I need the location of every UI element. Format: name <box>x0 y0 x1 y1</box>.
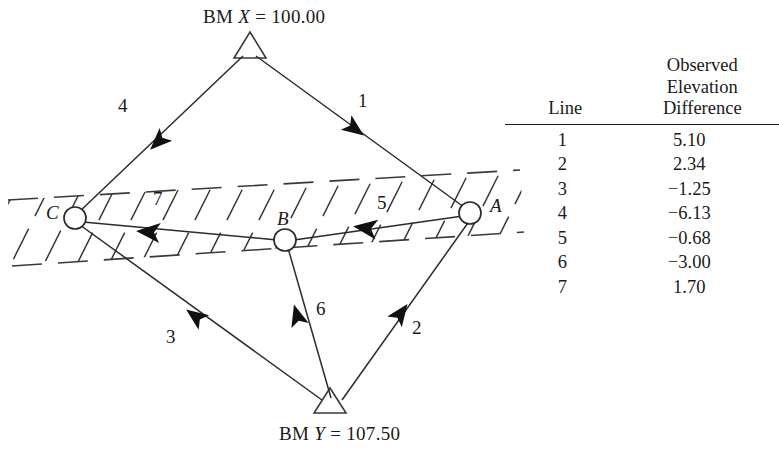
cell-line: 1 <box>505 124 626 152</box>
line-number-2: 2 <box>412 318 422 337</box>
bm-y-label: BM Y = 107.50 <box>279 424 400 443</box>
arrowhead-line-3 <box>181 302 209 329</box>
table-row: 5 −0.68 <box>505 226 779 250</box>
cell-difference: 5.10 <box>626 124 779 152</box>
cell-difference: −0.68 <box>626 226 779 250</box>
table-header: Line Observed Elevation Difference <box>505 55 779 124</box>
cell-difference: 1.70 <box>626 275 779 299</box>
station-label-c: C <box>46 203 59 222</box>
station-label-a: A <box>490 196 502 215</box>
column-header-line-text: Line <box>505 98 626 120</box>
arrowhead-line-7 <box>135 221 161 243</box>
table-row: 2 2.34 <box>505 153 779 177</box>
cell-line: 4 <box>505 202 626 226</box>
arrowhead-line-4 <box>144 128 172 156</box>
cell-line: 6 <box>505 251 626 275</box>
column-header-observed-text: Observed <box>626 55 779 77</box>
column-header-elevation-text: Elevation <box>626 77 779 99</box>
cell-line: 5 <box>505 226 626 250</box>
table-row: 6 −3.00 <box>505 251 779 275</box>
column-header-difference-text: Difference <box>626 98 779 120</box>
direction-arrowheads <box>135 115 415 329</box>
station-node-c <box>64 207 86 229</box>
cell-difference: −3.00 <box>626 251 779 275</box>
cell-line: 7 <box>505 275 626 299</box>
edge-line-5 <box>294 216 463 240</box>
network-edges <box>78 56 470 400</box>
line-number-6: 6 <box>316 299 326 318</box>
edge-line-7 <box>83 222 277 240</box>
cell-difference: −6.13 <box>626 202 779 226</box>
line-number-1: 1 <box>358 91 368 110</box>
table-row: 3 −1.25 <box>505 177 779 201</box>
cell-difference: −1.25 <box>626 177 779 201</box>
station-node-a <box>459 202 481 224</box>
cell-line: 3 <box>505 177 626 201</box>
line-number-7: 7 <box>153 189 163 208</box>
line-number-5: 5 <box>377 193 387 212</box>
line-number-4: 4 <box>118 96 128 115</box>
cell-line: 2 <box>505 153 626 177</box>
line-number-3: 3 <box>166 327 176 346</box>
table-header-row: Line Observed Elevation Difference <box>505 55 779 124</box>
bm-x-symbol <box>234 32 266 58</box>
observation-table: Line Observed Elevation Difference 1 <box>505 55 779 300</box>
observed-elevation-difference-table: Line Observed Elevation Difference 1 <box>505 55 779 300</box>
station-label-b: B <box>277 209 289 228</box>
bm-x-label: BM X = 100.00 <box>203 7 325 26</box>
table-row: 1 5.10 <box>505 124 779 152</box>
bm-y-symbol <box>314 388 346 413</box>
column-header-line: Line <box>505 55 626 124</box>
column-header-difference: Observed Elevation Difference <box>626 55 779 124</box>
station-node-b <box>274 229 296 251</box>
table-row: 7 1.70 <box>505 275 779 299</box>
arrowhead-line-1 <box>341 115 369 142</box>
leveling-network-figure: BM X = 100.00 BM Y = 107.50 A B C 1 2 3 … <box>0 0 779 457</box>
cell-difference: 2.34 <box>626 153 779 177</box>
table-body: 1 5.10 2 2.34 3 −1.25 4 −6.13 5 −0.68 <box>505 124 779 299</box>
table-row: 4 −6.13 <box>505 202 779 226</box>
